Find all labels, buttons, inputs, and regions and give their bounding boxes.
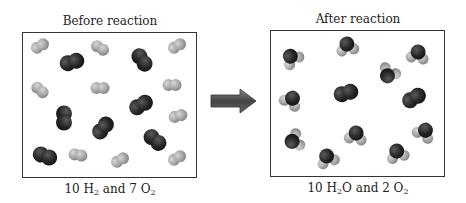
hydrogen-molecule: [29, 79, 51, 100]
hydrogen-molecule: [68, 147, 89, 162]
water-molecule: [281, 127, 307, 155]
oxygen-molecule: [140, 126, 169, 154]
water-molecule: [343, 124, 369, 147]
oxygen-molecule: [56, 106, 72, 131]
hydrogen-molecule: [89, 38, 111, 58]
water-molecule: [313, 145, 341, 171]
oxygen-molecule: [89, 113, 117, 142]
oxygen-molecule: [31, 144, 60, 168]
water-molecule: [384, 141, 411, 165]
oxygen-molecule: [126, 92, 156, 118]
oxygen-molecule: [399, 85, 429, 111]
water-molecule: [277, 43, 307, 72]
oxygen-molecule: [332, 82, 360, 104]
hydrogen-molecule: [166, 36, 188, 56]
hydrogen-molecule: [109, 150, 131, 170]
oxygen-molecule: [58, 51, 86, 73]
water-molecule: [334, 35, 360, 58]
water-molecule: [374, 60, 403, 88]
hydrogen-molecule: [163, 79, 182, 91]
oxygen-molecule: [128, 45, 155, 75]
hydrogen-molecule: [91, 82, 110, 94]
hydrogen-molecule: [166, 148, 188, 168]
molecule-layer: [0, 0, 466, 203]
water-molecule: [410, 118, 439, 146]
hydrogen-molecule: [29, 36, 51, 56]
water-molecule: [405, 43, 431, 66]
hydrogen-molecule: [167, 108, 188, 125]
water-molecule: [277, 86, 306, 114]
